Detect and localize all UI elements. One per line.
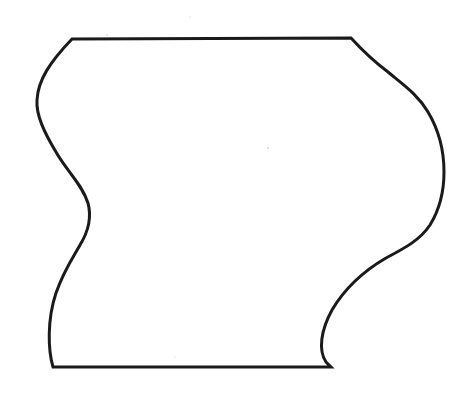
- paper-speck: [106, 34, 108, 36]
- paper-speck: [267, 147, 269, 149]
- shape-svg: [0, 0, 473, 411]
- paper-speck: [174, 356, 175, 357]
- paper-speck: [189, 16, 190, 17]
- drawing-canvas: [0, 0, 473, 411]
- wavy-outline-shape: [37, 38, 444, 367]
